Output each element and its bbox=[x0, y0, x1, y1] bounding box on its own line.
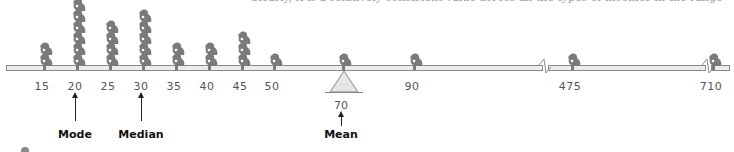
person-figure-icon bbox=[231, 31, 253, 49]
median-arrow bbox=[141, 97, 142, 121]
tick-label: 15 bbox=[35, 80, 50, 93]
person-figure-icon bbox=[702, 53, 724, 71]
tick-label: 35 bbox=[167, 80, 182, 93]
axis-break-icon bbox=[538, 57, 552, 77]
person-figure-icon bbox=[198, 42, 220, 60]
tick-label: 45 bbox=[233, 80, 248, 93]
person-figure-icon bbox=[263, 53, 285, 71]
caption-text-partial: Clearly, it is a relatively consistent v… bbox=[250, 0, 734, 4]
person-figure-icon bbox=[403, 53, 425, 71]
mode-arrow bbox=[75, 97, 76, 121]
person-figure-partial bbox=[18, 146, 30, 152]
median-label: Median bbox=[118, 128, 163, 141]
tick-label: 710 bbox=[700, 80, 723, 93]
person-figure-icon bbox=[132, 9, 154, 27]
mean-arrow bbox=[341, 116, 342, 126]
mean-label: Mean bbox=[324, 128, 358, 141]
tick-label: 25 bbox=[101, 80, 116, 93]
person-figure-icon bbox=[66, 0, 88, 16]
person-figure-icon bbox=[165, 42, 187, 60]
mode-label: Mode bbox=[58, 128, 92, 141]
tick-label: 475 bbox=[559, 80, 582, 93]
person-figure-icon bbox=[332, 53, 354, 71]
tick-label: 40 bbox=[200, 80, 215, 93]
person-figure-icon bbox=[99, 20, 121, 38]
person-figure-icon bbox=[561, 53, 583, 71]
fulcrum-triangle bbox=[325, 70, 363, 93]
person-figure-icon bbox=[33, 42, 55, 60]
tick-label: 90 bbox=[405, 80, 420, 93]
tick-label: 50 bbox=[265, 80, 280, 93]
